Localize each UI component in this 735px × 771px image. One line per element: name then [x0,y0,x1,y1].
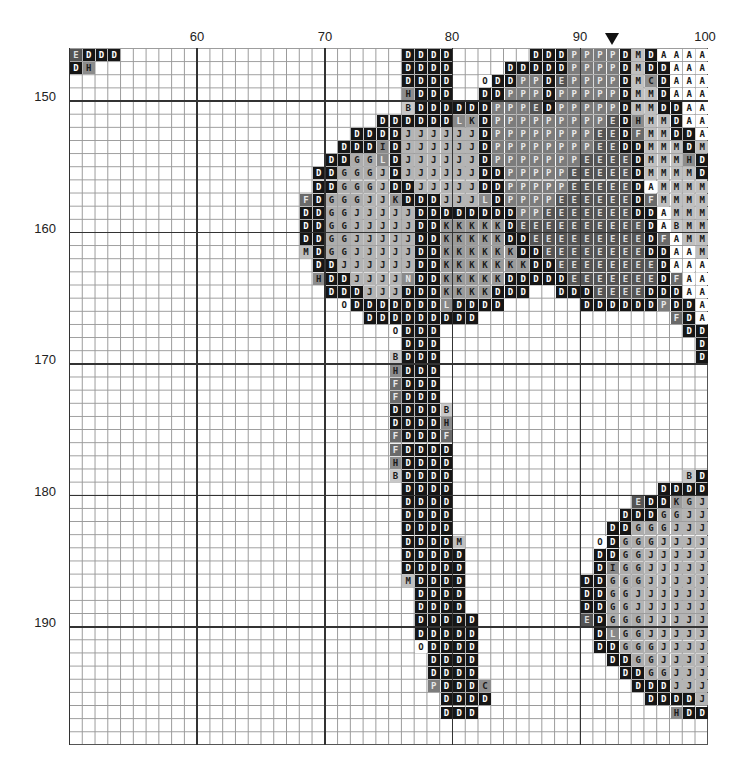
stitch-cell: G [364,181,376,193]
stitch-cell: D [83,49,95,61]
stitch-cell: F [441,430,453,442]
stitch-cell: D [428,259,440,271]
stitch-cell: K [441,259,453,271]
stitch-cell: D [402,49,414,61]
stitch-cell: D [326,167,338,179]
stitch-cell: P [492,102,504,114]
stitch-cell: D [428,654,440,666]
stitch-cell: E [530,102,542,114]
stitch-cell: E [568,259,580,271]
stitch-cell: A [696,88,708,100]
stitch-cell: E [70,49,82,61]
stitch-cell: D [683,707,695,719]
stitch-cell: D [453,601,465,613]
stitch-cell: G [620,614,632,626]
major-gridline-horizontal [69,232,708,234]
stitch-cell: J [428,141,440,153]
stitch-cell: G [632,562,644,574]
stitch-cell: D [351,299,363,311]
stitch-cell: E [620,207,632,219]
stitch-cell: D [415,378,427,390]
stitch-cell: D [402,115,414,127]
stitch-cell: P [517,75,529,87]
stitch-cell: G [645,667,657,679]
stitch-cell: D [479,154,491,166]
stitch-cell: E [594,233,606,245]
stitch-cell: J [351,233,363,245]
stitch-cell: E [632,273,644,285]
stitch-cell: M [671,141,683,153]
stitch-cell: D [415,62,427,74]
stitch-cell: D [428,404,440,416]
stitch-cell: D [377,299,389,311]
stitch-cell: P [556,88,568,100]
stitch-cell: F [658,233,670,245]
stitch-cell: P [543,181,555,193]
stitch-cell: M [645,115,657,127]
stitch-cell: A [696,273,708,285]
stitch-cell: D [402,536,414,548]
stitch-cell: D [658,483,670,495]
stitch-cell: D [645,207,657,219]
stitch-cell: E [620,259,632,271]
stitch-cell: P [568,154,580,166]
stitch-cell: G [620,601,632,613]
stitch-cell: D [428,614,440,626]
stitch-cell: J [658,614,670,626]
stitch-cell: D [453,641,465,653]
stitch-cell: D [402,378,414,390]
stitch-cell: J [390,246,402,258]
stitch-cell: D [453,707,465,719]
stitch-cell: M [632,62,644,74]
stitch-cell: J [671,549,683,561]
stitch-cell: J [402,259,414,271]
stitch-cell: P [568,115,580,127]
stitch-cell: D [594,549,606,561]
stitch-cell: J [351,207,363,219]
stitch-cell: D [441,62,453,74]
stitch-cell: D [428,207,440,219]
stitch-cell: P [530,88,542,100]
stitch-cell: D [453,588,465,600]
stitch-cell: D [466,693,478,705]
stitch-cell: D [415,417,427,429]
stitch-cell: D [415,273,427,285]
stitch-cell: J [453,141,465,153]
stitch-cell: D [594,562,606,574]
stitch-cell: D [632,680,644,692]
stitch-cell: J [671,614,683,626]
stitch-cell: G [351,194,363,206]
stitch-cell: J [453,194,465,206]
stitch-cell: D [607,654,619,666]
stitch-cell: D [415,496,427,508]
stitch-cell: D [581,588,593,600]
stitch-cell: A [658,207,670,219]
stitch-cell: A [696,312,708,324]
stitch-cell: D [326,181,338,193]
stitch-cell: D [428,365,440,377]
stitch-cell: D [428,496,440,508]
stitch-cell: P [517,194,529,206]
stitch-cell: J [658,588,670,600]
stitch-cell: J [645,549,657,561]
stitch-cell: A [696,299,708,311]
stitch-cell: P [543,115,555,127]
stitch-cell: M [658,115,670,127]
stitch-cell: E [607,233,619,245]
stitch-cell: D [543,88,555,100]
row-label-180: 180 [0,484,56,499]
stitch-cell: D [428,194,440,206]
stitch-cell: D [300,220,312,232]
stitch-cell: J [415,167,427,179]
stitch-cell: K [441,246,453,258]
stitch-cell: D [441,207,453,219]
stitch-cell: A [671,259,683,271]
stitch-cell: F [390,391,402,403]
stitch-cell: M [632,88,644,100]
stitch-cell: J [658,562,670,574]
stitch-cell: J [696,667,708,679]
stitch-cell: D [415,628,427,640]
stitch-cell: G [632,575,644,587]
column-label-90: 90 [573,29,587,44]
stitch-cell: E [581,233,593,245]
